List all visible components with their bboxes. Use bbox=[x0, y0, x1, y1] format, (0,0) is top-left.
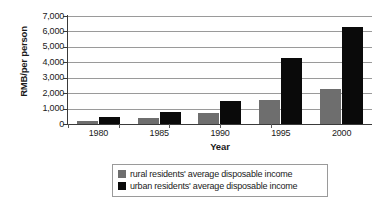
y-axis-tick-labels: 7,0006,0005,0004,0003,0002,0001,0000 bbox=[30, 11, 64, 127]
bar-rural[interactable] bbox=[198, 113, 219, 124]
bar-group bbox=[311, 16, 372, 124]
y-axis-title: RMB/per person bbox=[18, 16, 29, 108]
x-axis-tick-labels: 19801985199019952000 bbox=[68, 128, 372, 140]
bar-urban[interactable] bbox=[160, 112, 181, 124]
bar-group bbox=[190, 16, 251, 124]
y-axis-tick-label: 4,000 bbox=[30, 58, 64, 67]
y-axis-tick-label: 2,000 bbox=[30, 89, 64, 98]
legend-item-label: urban residents' average disposable inco… bbox=[130, 181, 297, 192]
bar-urban[interactable] bbox=[342, 27, 363, 124]
legend-item-label: rural residents' average disposable inco… bbox=[130, 169, 292, 180]
y-axis-tick-label: 6,000 bbox=[30, 27, 64, 36]
x-axis-title: Year bbox=[68, 141, 372, 152]
y-axis-tick-label: 3,000 bbox=[30, 73, 64, 82]
bars-layer bbox=[68, 16, 372, 124]
x-axis-tick-label: 1980 bbox=[68, 128, 129, 140]
legend-swatch-rural-icon bbox=[118, 170, 126, 178]
bar-urban[interactable] bbox=[220, 101, 241, 124]
y-axis-tick-label: 5,000 bbox=[30, 42, 64, 51]
bar-urban[interactable] bbox=[99, 117, 120, 124]
bar-urban[interactable] bbox=[281, 58, 302, 124]
x-axis-tick-label: 1985 bbox=[129, 128, 190, 140]
legend-item[interactable]: urban residents' average disposable inco… bbox=[118, 180, 322, 192]
y-axis-tick-label: 0 bbox=[30, 120, 64, 129]
legend-item[interactable]: rural residents' average disposable inco… bbox=[118, 168, 322, 180]
bar-group bbox=[68, 16, 129, 124]
x-axis-tick-label: 2000 bbox=[311, 128, 372, 140]
bar-group bbox=[250, 16, 311, 124]
legend-swatch-urban-icon bbox=[118, 182, 126, 190]
y-axis-tick-label: 7,000 bbox=[30, 12, 64, 21]
bar-rural[interactable] bbox=[259, 100, 280, 124]
x-axis-tick-label: 1995 bbox=[250, 128, 311, 140]
chart-legend: rural residents' average disposable inco… bbox=[112, 164, 328, 197]
x-axis-tick-label: 1990 bbox=[190, 128, 251, 140]
bar-chart-figure: RMB/per person 7,0006,0005,0004,0003,000… bbox=[0, 0, 380, 204]
y-axis-tick-label: 1,000 bbox=[30, 104, 64, 113]
plot-area bbox=[68, 16, 372, 124]
bar-group bbox=[129, 16, 190, 124]
bar-rural[interactable] bbox=[320, 89, 341, 124]
